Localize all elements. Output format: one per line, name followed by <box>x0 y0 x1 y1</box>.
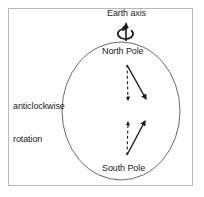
globe-circle <box>62 42 180 180</box>
south-pole-label: South Pole <box>102 163 145 174</box>
earth-axis-rotation-icon <box>118 24 133 42</box>
solid-deflected-down-right-arrow <box>127 65 146 99</box>
rotation-label-line-2: rotation <box>13 134 65 145</box>
coriolis-diagram-figure: Earth axis North Pole South Pole anticlo… <box>0 0 204 197</box>
rotation-direction-label: anticlockwise rotation <box>13 79 65 167</box>
north-pole-label: North Pole <box>102 46 144 57</box>
northern-deflection-group <box>127 65 146 100</box>
rotation-label-line-1: anticlockwise <box>13 101 65 112</box>
dashed-down-arrow <box>127 65 128 100</box>
solid-deflected-up-right-arrow <box>127 121 145 155</box>
earth-axis-label: Earth axis <box>107 8 146 19</box>
southern-deflection-group <box>127 121 145 155</box>
dashed-up-arrow <box>127 122 128 155</box>
